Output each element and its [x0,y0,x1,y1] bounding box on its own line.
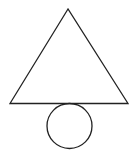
diagram-canvas [0,0,132,157]
circle-shape [47,104,92,149]
triangle-shape [10,9,128,104]
